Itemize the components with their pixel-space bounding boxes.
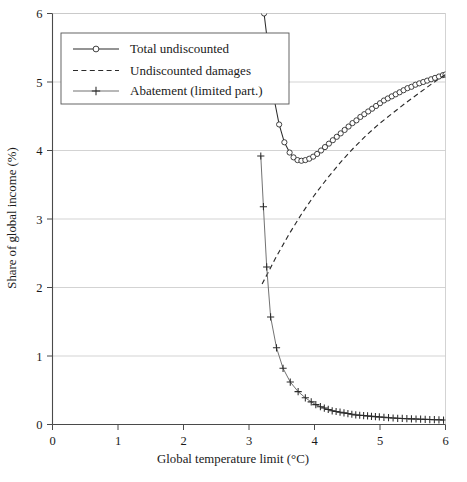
legend-entry-label: Abatement (limited part.) — [130, 83, 262, 98]
series-undiscounted-damages — [262, 74, 445, 284]
y-tick-label: 2 — [36, 281, 42, 295]
x-tick-label: 6 — [442, 434, 448, 448]
x-tick-labels: 0123456 — [49, 434, 448, 448]
y-tick-label: 6 — [36, 7, 42, 21]
chart-figure: 0123456 0123456 Total undiscountedUndisc… — [0, 0, 467, 482]
legend-circle-marker-icon — [93, 46, 99, 52]
legend-entry-label: Undiscounted damages — [130, 63, 251, 78]
y-tick-label: 3 — [36, 213, 42, 227]
y-tick-labels: 0123456 — [36, 7, 43, 432]
chart-legend: Total undiscountedUndiscounted damagesAb… — [61, 33, 289, 104]
data-point-marker — [287, 150, 292, 155]
series-path — [264, 14, 445, 161]
x-tick-label: 3 — [246, 434, 252, 448]
x-tick-label: 5 — [377, 434, 383, 448]
y-tick-label: 4 — [36, 144, 43, 158]
series-abatement-limited-part — [257, 152, 447, 423]
y-tick-label: 0 — [36, 418, 42, 432]
x-tick-label: 2 — [180, 434, 186, 448]
data-point-marker — [277, 122, 282, 127]
series-total-undiscounted — [261, 11, 448, 163]
x-tick-label: 1 — [115, 434, 121, 448]
x-tick-label: 0 — [49, 434, 55, 448]
x-axis-title: Global temperature limit (°C) — [157, 452, 309, 466]
series-path — [262, 74, 445, 284]
y-tick-label: 1 — [36, 350, 42, 364]
x-tick-label: 4 — [311, 434, 318, 448]
chart-canvas: 0123456 0123456 Total undiscountedUndisc… — [0, 0, 467, 482]
series-path — [261, 156, 444, 420]
data-point-marker — [282, 140, 287, 145]
y-tick-label: 5 — [36, 76, 42, 90]
legend-entry-label: Total undiscounted — [130, 41, 230, 56]
y-axis-title: Share of global income (%) — [5, 147, 19, 288]
